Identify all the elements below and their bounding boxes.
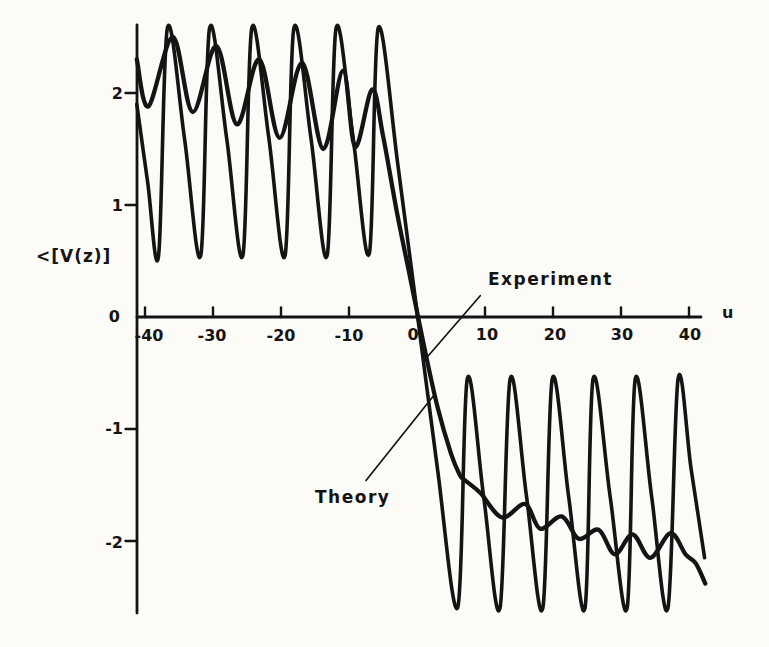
- x-tick-label-20: 20: [544, 325, 566, 344]
- y-tick-label-m1: -1: [105, 419, 123, 438]
- y-tick-label-2: 2: [112, 84, 123, 103]
- theory-leader-line: [366, 397, 433, 481]
- y-tick-label-0: 0: [109, 307, 120, 326]
- x-tick-label-m10: -10: [335, 326, 364, 345]
- experiment-label: Experiment: [488, 269, 613, 289]
- chart-layers: [126, 25, 706, 613]
- vz-figure: 2 1 0 -1 -2 -40 -30 -20 -10 0 10 20 30 4…: [0, 0, 769, 647]
- x-tick-label-10: 10: [476, 325, 498, 344]
- x-tick-label-m30: -30: [198, 326, 227, 345]
- y-axis-title: <[V(z)]: [36, 246, 111, 266]
- x-tick-label-m40: -40: [135, 326, 164, 345]
- x-axis-title: u: [722, 303, 733, 322]
- x-tick-label-40: 40: [679, 325, 701, 344]
- x-tick-label-0: 0: [407, 325, 418, 344]
- experiment-leader-line: [428, 296, 480, 356]
- theory-label: Theory: [315, 487, 390, 507]
- vz-chart: 2 1 0 -1 -2 -40 -30 -20 -10 0 10 20 30 4…: [0, 0, 769, 647]
- y-tick-label-1: 1: [112, 196, 123, 215]
- x-tick-label-m20: -20: [267, 326, 296, 345]
- y-tick-label-m2: -2: [105, 533, 123, 552]
- x-tick-label-30: 30: [611, 325, 633, 344]
